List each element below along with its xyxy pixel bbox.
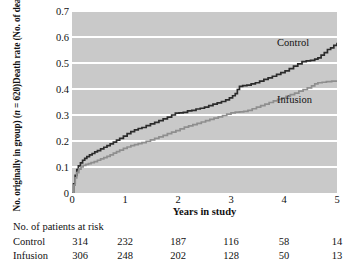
risk-table-row: Control3142321871165814 (13, 235, 351, 249)
risk-cell: 58 (279, 235, 290, 248)
x-tick-label: 5 (334, 194, 339, 206)
y-axis-title: No. originally in group) (n = 620) Death… (0, 0, 34, 196)
risk-cell: 248 (117, 249, 133, 262)
risk-row-label: Infusion (13, 249, 48, 262)
y-tick-label: 0 (64, 188, 69, 199)
y-tick-label: 0.4 (56, 84, 69, 95)
risk-cell: 116 (223, 235, 238, 248)
risk-cell: 314 (72, 235, 88, 248)
y-axis-title-line2-post: = 620) (12, 84, 22, 110)
risk-cell: 128 (223, 249, 239, 262)
y-tick-label: 0.1 (56, 162, 69, 173)
risk-row-label: Control (13, 235, 45, 248)
curve-control (72, 43, 337, 193)
risk-cell: 13 (332, 249, 343, 262)
risk-cell: 14 (332, 235, 343, 248)
risk-table-rows: Control3142321871165814Infusion306248202… (13, 235, 351, 263)
y-tick-label: 0.5 (56, 58, 69, 69)
y-tick-label: 0.2 (56, 136, 69, 147)
x-tick-label: 2 (175, 194, 180, 206)
survival-curve-figure: No. originally in group) (n = 620) Death… (0, 0, 351, 275)
y-tick-label: 0.7 (56, 6, 69, 17)
series-label-control: Control (277, 37, 309, 49)
risk-cell: 187 (170, 235, 186, 248)
x-tick-label: 4 (281, 194, 286, 206)
x-tick-label: 0 (69, 194, 74, 206)
y-axis-title-line2: No. originally in group) (n = 620) (12, 84, 23, 212)
risk-table-caption: No. of patients at risk (13, 220, 351, 233)
y-axis-title-n-italic: n (12, 110, 22, 115)
series-label-infusion: Infusion (277, 94, 312, 106)
y-tick-label: 0.3 (56, 110, 69, 121)
x-tick-label: 1 (122, 194, 127, 206)
x-tick-label: 3 (228, 194, 233, 206)
risk-table: No. of patients at risk Control314232187… (13, 220, 351, 263)
y-axis-title-line2-pre: No. originally in group) ( (12, 115, 22, 211)
risk-cell: 232 (117, 235, 133, 248)
risk-cell: 202 (170, 249, 186, 262)
risk-cell: 306 (72, 249, 88, 262)
risk-cell: 50 (279, 249, 290, 262)
y-axis-title-line1: Death rate (No. of deaths/ (12, 0, 23, 84)
y-axis-tick-labels: 00.10.20.30.40.50.60.7 (40, 11, 69, 193)
risk-table-row: Infusion3062482021285013 (13, 249, 351, 263)
x-axis-title: Years in study (72, 206, 337, 218)
y-tick-label: 0.6 (56, 32, 69, 43)
